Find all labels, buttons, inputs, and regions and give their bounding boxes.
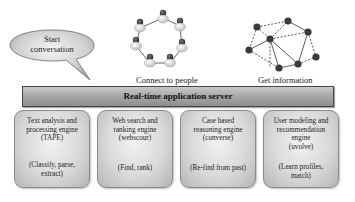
engine-name-line: Web search and	[98, 117, 172, 126]
engine-case-based-reasoning: Case based reasoning engine (converse) (…	[180, 110, 256, 188]
real-time-application-server: Real-time application server	[22, 86, 334, 107]
engine-name-line: engine	[264, 134, 338, 143]
engine-name-line: reasoning engine	[181, 126, 255, 135]
engine-name-line: (uvolve)	[264, 143, 338, 152]
engine-function-line: (Learn profiles,	[264, 163, 338, 172]
engine-name-line: (TAPE)	[15, 134, 89, 143]
people-network-caption: Connect to people	[136, 75, 198, 85]
engine-function-line: extract)	[15, 170, 89, 179]
bubble-line-1: Start	[21, 34, 83, 44]
engine-web-search: Web search and ranking engine (webscour)…	[97, 110, 173, 188]
engine-name-line: ranking engine	[98, 126, 172, 135]
speech-bubble-label: Start conversation	[21, 34, 83, 54]
engine-name-line: recommendation	[264, 126, 338, 135]
engine-name-line: processing engine	[15, 126, 89, 135]
engine-function-line: (Classify, parse,	[15, 161, 89, 170]
engine-name-line: Case based	[181, 117, 255, 126]
engine-user-modeling: User modeling and recommendation engine …	[263, 110, 339, 188]
engine-function-line: match)	[264, 172, 338, 181]
information-network-icon	[235, 5, 320, 80]
engine-name-line: User modeling and	[264, 117, 338, 126]
people-network-icon	[125, 0, 205, 75]
bubble-line-2: conversation	[21, 44, 83, 54]
engine-name-line: (webscour)	[98, 134, 172, 143]
engine-name-line: (converse)	[181, 134, 255, 143]
information-network-caption: Get information	[258, 75, 313, 85]
engine-text-analysis: Text analysis and processing engine (TAP…	[14, 110, 90, 188]
engine-name-line: Text analysis and	[15, 117, 89, 126]
engine-function-line: (Find, rank)	[98, 164, 172, 173]
engine-function-line: (Re-find from past)	[181, 164, 255, 173]
